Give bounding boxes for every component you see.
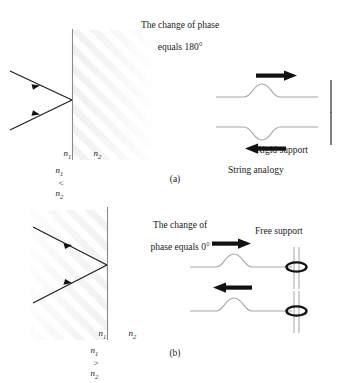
free-support-label: Free support [255,226,303,237]
free-support-bottom-b [287,291,307,333]
n2-subscript: 2 [133,333,136,340]
string-incident-a [216,84,318,97]
incident-ray-a [10,71,72,100]
panel-b-n2-label: n2 [115,318,136,351]
string-reflected-a [216,127,318,140]
panel-a: The change of phase equals 180° n1 n2 n1… [0,0,356,185]
panel-b-letter: (b) [155,348,195,359]
panel-b-relation: n1 > n2 [77,335,102,383]
panel-b-title-line2: phase equals 0° [151,242,210,252]
relation-operator: > [91,358,102,368]
string-reflected-b [190,298,292,311]
panel-b-title: The change of phase equals 0° [113,209,233,264]
panel-b: The change of phase equals 0° n1 n2 n1 >… [0,185,356,369]
panel-a-title-line2: equals 180° [158,42,203,52]
panel-a-title-line1: The change of phase [141,20,219,30]
n1-subscript: 1 [68,153,71,160]
rigid-support-label: Rigid support [256,145,308,156]
string-analogy-label: String analogy [228,165,284,176]
panel-a-title: The change of phase equals 180° [78,9,268,64]
n2-subscript: 2 [98,153,101,160]
panel-a-n2-label: n2 [80,138,101,171]
panel-a-letter: (a) [155,174,195,185]
panel-b-title-line1: The change of [153,220,207,230]
n1-subscript: 1 [103,333,106,340]
arrow-incident-a [256,71,297,81]
reflected-ray-a [10,100,72,130]
arrow-reflected-b [213,283,252,293]
free-support-top-b [287,247,307,289]
